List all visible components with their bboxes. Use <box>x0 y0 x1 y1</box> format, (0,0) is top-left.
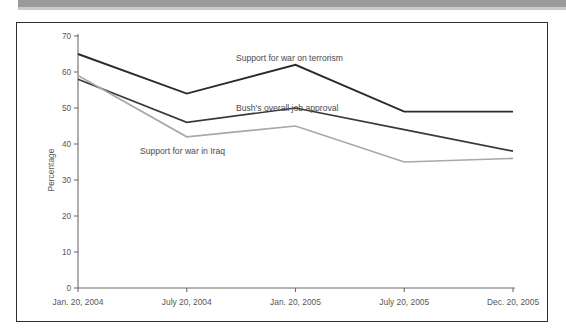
y-axis-tick-label: 60 <box>62 68 72 77</box>
x-axis-tick-label: Jan. 20, 2005 <box>270 297 321 307</box>
y-axis-tick-label: 20 <box>62 212 72 221</box>
y-axis-title: Percentage <box>46 148 56 191</box>
series-annotations: Support for war on terrorismBush's overa… <box>140 53 343 156</box>
y-axis-tick-label: 10 <box>62 248 72 257</box>
series-annotation-label: Support for war on terrorism <box>236 53 343 63</box>
x-axis-tick-label: July 20, 2004 <box>162 297 212 307</box>
x-axis-tick-label: Jan. 20, 2004 <box>53 297 104 307</box>
y-axis-tick-label: 30 <box>62 176 72 185</box>
x-axis: Jan. 20, 2004July 20, 2004Jan. 20, 2005J… <box>53 288 540 307</box>
series-annotation-label: Bush's overall job approval <box>236 103 339 113</box>
y-axis-tick-label: 70 <box>62 32 72 41</box>
x-axis-tick-label: Dec. 20, 2005 <box>487 297 539 307</box>
y-axis-tick-label: 40 <box>62 140 72 149</box>
y-axis-tick-label: 0 <box>66 284 71 293</box>
y-axis: 010203040506070 <box>62 32 78 293</box>
series-line <box>78 79 513 151</box>
series-annotation-label: Support for war in Iraq <box>140 146 225 156</box>
line-chart: 010203040506070 Jan. 20, 2004July 20, 20… <box>0 0 566 333</box>
y-axis-tick-label: 50 <box>62 104 72 113</box>
x-axis-tick-label: July 20, 2005 <box>379 297 429 307</box>
